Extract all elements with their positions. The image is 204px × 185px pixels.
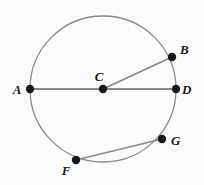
point-b bbox=[168, 53, 176, 61]
label-point-d: D bbox=[181, 82, 192, 97]
label-point-a: A bbox=[12, 82, 22, 97]
label-point-b: B bbox=[179, 42, 189, 57]
point-c-center bbox=[99, 85, 107, 93]
point-d bbox=[172, 85, 180, 93]
point-a bbox=[26, 85, 34, 93]
geometry-figure: A C D B G F bbox=[0, 0, 204, 185]
point-f bbox=[72, 156, 80, 164]
label-point-f: F bbox=[61, 163, 71, 178]
label-point-g: G bbox=[171, 133, 181, 148]
point-g bbox=[158, 135, 166, 143]
circle-diagram-canvas: A C D B G F bbox=[0, 0, 204, 185]
label-point-c: C bbox=[95, 69, 104, 84]
segment-radius-c-b bbox=[103, 57, 172, 89]
segment-chord-f-g bbox=[76, 139, 162, 160]
